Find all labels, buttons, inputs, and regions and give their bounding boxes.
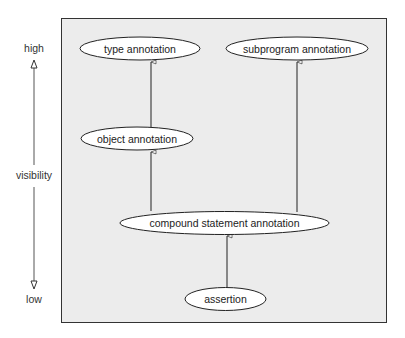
node-subprogram-annotation: subprogram annotation <box>226 37 368 60</box>
node-label: subprogram annotation <box>243 43 351 55</box>
node-label: object annotation <box>97 133 177 145</box>
node-assertion: assertion <box>185 288 266 311</box>
node-type-annotation: type annotation <box>80 37 200 60</box>
axis-down-arrow-icon <box>31 281 37 289</box>
axis-high-label: high <box>24 42 44 54</box>
node-label: type annotation <box>104 43 176 55</box>
visibility-axis: high visibility low <box>16 42 53 305</box>
node-label: assertion <box>204 293 247 305</box>
diagram-panel <box>62 19 387 323</box>
axis-low-label: low <box>26 293 42 305</box>
axis-up-arrow-icon <box>31 60 37 68</box>
node-label: compound statement annotation <box>149 217 299 229</box>
node-object-annotation: object annotation <box>81 127 193 150</box>
visibility-diagram: high visibility low type annotation subp… <box>0 0 405 338</box>
node-compound-statement-annotation: compound statement annotation <box>120 212 329 235</box>
axis-visibility-label: visibility <box>16 169 53 181</box>
